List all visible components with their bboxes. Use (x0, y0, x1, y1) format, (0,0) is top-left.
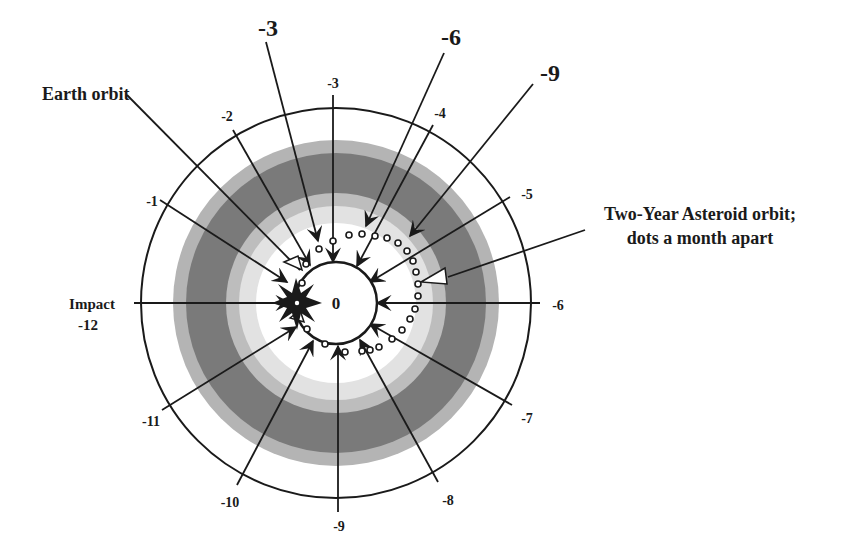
asteroid-orbit-label-line1: Two-Year Asteroid orbit; (604, 204, 796, 224)
asteroid-month-label: -9 (540, 60, 560, 86)
earth-month-label: -8 (442, 493, 454, 508)
impact-label: Impact (69, 296, 115, 312)
earth-month-label: -2 (221, 109, 233, 124)
impact-month-label: -12 (78, 317, 98, 333)
earth-month-label: -9 (333, 519, 345, 534)
asteroid-month-labels: -3 -6 -9 (258, 15, 560, 86)
asteroid-orbit-label-line2: dots a month apart (627, 228, 774, 248)
center-label: 0 (332, 294, 341, 313)
earth-orbit-label: Earth orbit (42, 84, 130, 104)
earth-month-label: -7 (521, 411, 533, 426)
earth-month-label: -4 (434, 106, 446, 121)
earth-month-label: -11 (142, 414, 160, 429)
asteroid-month-label: -6 (441, 24, 461, 50)
earth-month-label: -5 (521, 187, 533, 202)
earth-month-label: -3 (327, 76, 339, 91)
asteroid-orbit-diagram: 0 Earth orbit Two-Year Asteroid orbit; d… (0, 0, 849, 551)
earth-month-label: -6 (552, 298, 564, 313)
asteroid-month-label: -3 (258, 15, 278, 41)
earth-month-label: -1 (146, 194, 158, 209)
earth-month-label: -10 (221, 495, 240, 510)
